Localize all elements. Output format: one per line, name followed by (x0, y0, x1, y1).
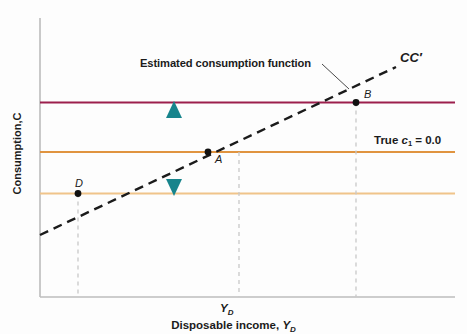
true-c1-label: True c1 = 0.0 (374, 135, 441, 147)
x-axis-label-subscript: D (290, 325, 296, 334)
true-c1-value: = 0.0 (412, 134, 441, 146)
x-tick-variable: Y (220, 302, 228, 314)
consumption-function-figure: Estimated consumption function CC′ True … (0, 0, 467, 334)
true-c1-prefix: True (374, 134, 401, 146)
x-axis-label-text: Disposable income, (171, 319, 282, 331)
leader-line (322, 64, 349, 89)
point-label-d: D (75, 178, 83, 189)
data-point-d[interactable] (75, 190, 82, 197)
true-c1-variable: c (401, 134, 407, 146)
point-label-a: A (215, 154, 222, 165)
x-axis-tick-label: YD (220, 303, 233, 315)
x-axis-label: Disposable income, YD (0, 320, 467, 332)
chart-canvas (0, 0, 467, 334)
y-axis-label: Consumption,C (12, 99, 23, 209)
point-label-b: B (364, 89, 371, 100)
cc-prime-label: CC′ (400, 51, 422, 64)
true-c1-subscript: 1 (408, 139, 412, 148)
estimated-consumption-label: Estimated consumption function (140, 58, 311, 69)
x-axis-label-variable: Y (282, 319, 290, 331)
x-tick-subscript: D (228, 308, 234, 317)
data-point-a[interactable] (205, 149, 212, 156)
data-point-b[interactable] (353, 99, 360, 106)
gap-arrow-head-up (166, 101, 182, 118)
